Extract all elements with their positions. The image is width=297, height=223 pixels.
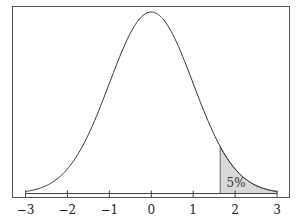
tail-percentage-label: 5%	[227, 176, 246, 190]
x-tick-label: 3	[273, 203, 281, 217]
density-curve	[26, 12, 278, 191]
normal-distribution-chart: −3−2−10123 5%	[0, 0, 297, 223]
x-tick-label: 0	[147, 203, 155, 217]
x-axis-tick-labels: −3−2−10123	[17, 203, 281, 217]
plot-frame	[13, 7, 290, 198]
x-tick-label: 2	[231, 203, 239, 217]
x-tick-label: 1	[189, 203, 197, 217]
x-tick-label: −2	[59, 203, 77, 217]
x-tick-label: −3	[17, 203, 35, 217]
x-tick-label: −1	[100, 203, 118, 217]
